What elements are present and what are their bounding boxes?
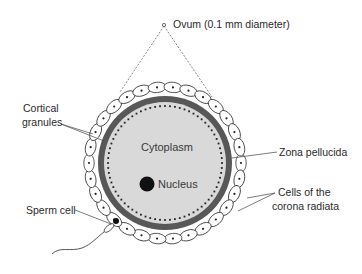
- cytoplasm: [104, 102, 226, 224]
- ovum-label: Ovum (0.1 mm diameter): [173, 18, 290, 30]
- cytoplasm-label: Cytoplasm: [141, 141, 193, 153]
- corona-radiata-label-line1: Cells of the: [278, 186, 331, 198]
- cortical-granules-label-line1: Cortical: [23, 102, 59, 114]
- nucleus-label: Nucleus: [158, 178, 198, 190]
- ovum-diagram: [0, 0, 362, 274]
- corona-radiata-label-line2: corona radiata: [272, 200, 339, 212]
- ovum-scale-dot: [162, 23, 165, 26]
- nucleus: [140, 177, 155, 192]
- cortical-granules-label-line2: granules: [22, 116, 62, 128]
- sperm-cell-label: Sperm cell: [26, 204, 76, 216]
- zona-pellucida-label: Zona pellucida: [279, 146, 347, 158]
